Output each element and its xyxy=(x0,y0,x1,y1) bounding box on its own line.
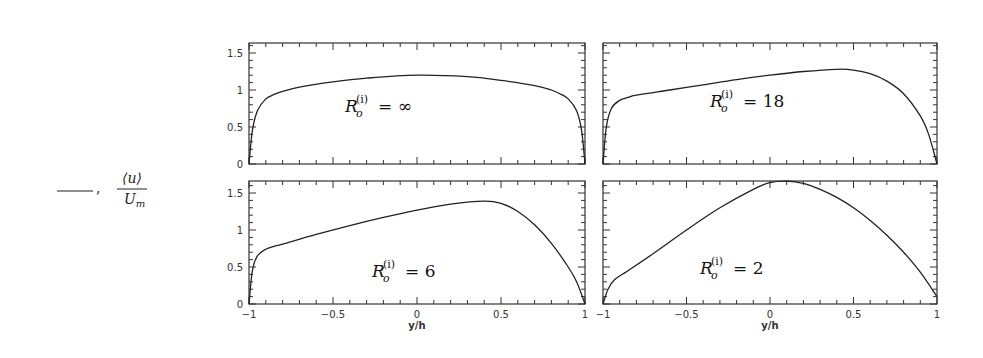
annotation-value: = 18 xyxy=(743,91,784,111)
annotation-subscript: o xyxy=(721,102,728,115)
velocity-profile-curve xyxy=(603,69,937,164)
panel-bottom-right: −1−0.500.51y/hRo(i)= 2 xyxy=(596,181,941,331)
rotation-number-annotation: Ro(i)= 6 xyxy=(371,258,435,285)
x-axis-label: y/h xyxy=(761,320,778,331)
legend-denominator: Um xyxy=(124,191,145,209)
y-tick-label: 1 xyxy=(237,85,243,96)
x-tick-label: 0.5 xyxy=(493,309,509,320)
x-tick-label: 0 xyxy=(414,309,420,320)
annotation-value: = ∞ xyxy=(378,96,412,116)
velocity-profile-curve xyxy=(249,75,585,164)
annotation-subscript: o xyxy=(383,272,390,285)
rotation-number-annotation: Ro(i)= 2 xyxy=(699,255,763,282)
x-tick-label: 0.5 xyxy=(846,309,862,320)
figure-canvas: , ⟨u⟩ Um 00.511.5Ro(i)= ∞Ro(i)= 1800.511… xyxy=(0,0,983,358)
panel-top-right: Ro(i)= 18 xyxy=(603,43,937,164)
x-tick-label: −1 xyxy=(242,309,257,320)
velocity-profile-curve xyxy=(603,181,937,304)
legend-separator: , xyxy=(96,180,100,196)
annotation-subscript: o xyxy=(711,269,718,282)
annotation-superscript: (i) xyxy=(356,93,368,106)
x-tick-label: 0 xyxy=(767,309,773,320)
rotation-number-annotation: Ro(i)= ∞ xyxy=(344,93,412,120)
legend: , ⟨u⟩ Um xyxy=(57,170,147,209)
y-tick-label: 1 xyxy=(237,225,243,236)
y-tick-label: 0.5 xyxy=(227,122,243,133)
plot-frame xyxy=(249,181,585,304)
annotation-value: = 2 xyxy=(733,258,763,278)
velocity-profile-curve xyxy=(249,201,585,304)
annotation-superscript: (i) xyxy=(711,255,723,268)
panel-top-left: 00.511.5Ro(i)= ∞ xyxy=(227,43,585,170)
x-tick-label: −0.5 xyxy=(321,309,345,320)
y-tick-label: 0.5 xyxy=(227,262,243,273)
y-tick-label: 1.5 xyxy=(227,188,243,199)
annotation-subscript: o xyxy=(356,107,363,120)
x-tick-label: −1 xyxy=(596,309,611,320)
y-tick-label: 1.5 xyxy=(227,48,243,59)
x-axis-label: y/h xyxy=(408,320,425,331)
x-tick-label: 1 xyxy=(582,309,588,320)
plot-frame xyxy=(249,43,585,164)
annotation-superscript: (i) xyxy=(721,88,733,101)
panels-group: 00.511.5Ro(i)= ∞Ro(i)= 1800.511.5−1−0.50… xyxy=(227,43,940,331)
rotation-number-annotation: Ro(i)= 18 xyxy=(709,88,784,115)
annotation-value: = 6 xyxy=(405,261,435,281)
y-tick-label: 0 xyxy=(237,159,243,170)
legend-numerator: ⟨u⟩ xyxy=(122,170,142,186)
panel-bottom-left: 00.511.5−1−0.500.51y/hRo(i)= 6 xyxy=(227,181,588,331)
x-tick-label: −0.5 xyxy=(674,309,698,320)
annotation-superscript: (i) xyxy=(383,258,395,271)
plot-frame xyxy=(603,181,937,304)
x-tick-label: 1 xyxy=(934,309,940,320)
